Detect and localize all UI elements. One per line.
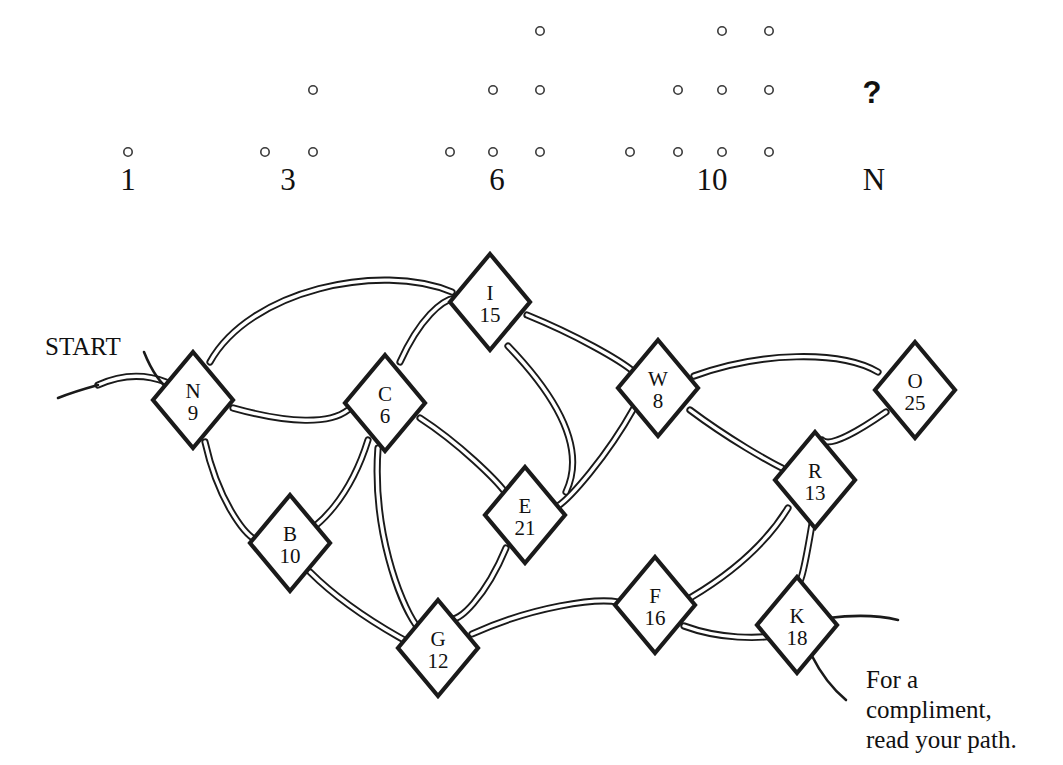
maze-edge-fill-I-E (508, 346, 573, 492)
start-label: START (45, 333, 121, 360)
maze-node-number-O: 25 (905, 391, 926, 415)
maze-edge-N-B (205, 442, 256, 540)
end-stub-1 (812, 656, 846, 700)
maze-node-number-R: 13 (805, 481, 826, 505)
maze-node-number-E: 21 (515, 516, 536, 540)
caption-line-0: For a (866, 666, 918, 693)
maze-node-O[interactable]: O25 (875, 342, 955, 438)
maze-graph: N9C6I15W8O25R13B10E21G12F16K18 START For… (0, 0, 1063, 765)
maze-node-K[interactable]: K18 (757, 577, 837, 673)
maze-edge-fill-R-F (690, 508, 788, 598)
maze-node-number-G: 12 (428, 649, 449, 673)
maze-node-letter-O: O (907, 369, 922, 393)
puzzle-page: 13610N ? N9C6I15W8O25R13B10E21G12F16K18 … (0, 0, 1063, 765)
start-stub-1 (58, 385, 98, 398)
maze-node-number-W: 8 (653, 389, 664, 413)
maze-node-letter-N: N (185, 379, 200, 403)
maze-node-letter-F: F (649, 584, 661, 608)
maze-node-number-N: 9 (188, 401, 199, 425)
maze-node-I[interactable]: I15 (450, 254, 530, 350)
maze-edge-B-G (310, 572, 404, 640)
maze-node-letter-E: E (519, 494, 532, 518)
maze-node-letter-R: R (808, 459, 822, 483)
maze-node-number-K: 18 (787, 626, 808, 650)
maze-edge-fill-N-I (210, 280, 452, 362)
caption-line-2: read your path. (866, 726, 1017, 753)
maze-node-number-F: 16 (645, 606, 666, 630)
maze-edge-R-F (690, 508, 788, 598)
end-stub-0 (828, 616, 898, 620)
maze-node-number-C: 6 (380, 404, 391, 428)
maze-node-letter-I: I (487, 281, 494, 305)
maze-nodes: N9C6I15W8O25R13B10E21G12F16K18 (153, 254, 955, 696)
maze-edge-C-I (400, 298, 455, 362)
maze-node-C[interactable]: C6 (345, 355, 425, 451)
maze-node-number-I: 15 (480, 303, 501, 327)
maze-node-letter-K: K (789, 604, 804, 628)
maze-edge-G-F (472, 601, 618, 634)
maze-node-letter-C: C (378, 382, 392, 406)
maze-node-letter-B: B (283, 522, 297, 546)
maze-node-letter-W: W (648, 367, 668, 391)
maze-edge-fill-O-R (822, 412, 886, 442)
maze-edge-C-E (420, 418, 505, 492)
maze-edge-E-G (450, 548, 506, 619)
maze-node-number-B: 10 (280, 544, 301, 568)
maze-node-F[interactable]: F16 (615, 557, 695, 653)
maze-node-letter-G: G (430, 627, 445, 651)
maze-node-N[interactable]: N9 (153, 352, 233, 448)
maze-edge-fill-C-G (377, 448, 416, 625)
caption-line-1: compliment, (866, 696, 992, 723)
maze-edge-fill-N-B (205, 442, 256, 540)
maze-caption: For acompliment,read your path. (866, 666, 1017, 753)
